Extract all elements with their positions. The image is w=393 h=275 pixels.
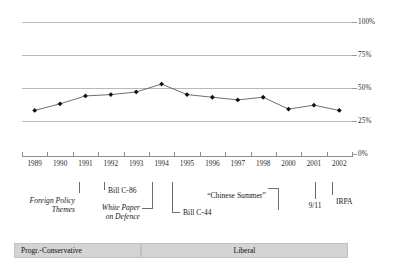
ytick-label-0: 0% xyxy=(358,150,368,158)
x-axis xyxy=(22,156,352,157)
data-point-marker xyxy=(32,108,37,113)
connector-bill-c44-vert xyxy=(172,182,173,212)
party-band-liberal-label: Liberal xyxy=(234,246,256,255)
annotation-bill-c44: Bill C-44 xyxy=(183,208,211,217)
series-polyline xyxy=(35,84,340,110)
connector-irpa xyxy=(332,182,333,195)
x-tick-mark xyxy=(98,152,99,157)
x-tick-label-1995: 1995 xyxy=(180,160,194,168)
data-point-marker xyxy=(159,82,164,87)
data-point-marker xyxy=(58,101,63,106)
data-point-marker xyxy=(134,90,139,95)
annotation-foreign-policy-themes-line1: Foreign Policy xyxy=(30,196,75,205)
party-band-progressive-conservative: Progr.-Conservative xyxy=(14,243,141,258)
x-tick-label-1990: 1990 xyxy=(53,160,67,168)
annotation-bill-c86: Bill C-86 xyxy=(108,186,136,195)
data-point-marker xyxy=(312,103,317,108)
data-point-marker xyxy=(286,107,291,112)
x-tick-mark xyxy=(124,152,125,157)
ytick-label-25: 25% xyxy=(358,117,371,125)
data-point-marker xyxy=(185,92,190,97)
x-tick-mark xyxy=(225,152,226,157)
data-point-marker xyxy=(210,95,215,100)
x-tick-mark xyxy=(251,152,252,157)
data-point-marker xyxy=(337,108,342,113)
ytick-dash-75 xyxy=(352,55,357,56)
connector-white-paper-horiz xyxy=(142,208,153,209)
ytick-label-75: 75% xyxy=(358,51,371,59)
x-tick-label-1998: 1998 xyxy=(256,160,270,168)
x-tick-label-1996: 1996 xyxy=(205,160,219,168)
x-tick-label-1997: 1997 xyxy=(231,160,245,168)
annotation-foreign-policy-themes-line2: Themes xyxy=(30,205,75,214)
x-tick-label-1991: 1991 xyxy=(78,160,92,168)
x-tick-label-2002: 2002 xyxy=(332,160,346,168)
data-point-marker xyxy=(108,92,113,97)
connector-white-paper-vert xyxy=(152,182,153,208)
ytick-dash-100 xyxy=(352,22,357,23)
data-point-marker xyxy=(261,95,266,100)
connector-chinese-summer-vert xyxy=(278,188,279,210)
x-tick-label-1989: 1989 xyxy=(28,160,42,168)
connector-911 xyxy=(315,182,316,199)
connector-foreign-policy xyxy=(79,182,80,193)
ytick-label-50: 50% xyxy=(358,84,371,92)
x-tick-mark xyxy=(327,152,328,157)
ytick-dash-50 xyxy=(352,88,357,89)
x-tick-mark xyxy=(47,152,48,157)
connector-bill-c44-horiz xyxy=(172,212,180,213)
ytick-dash-25 xyxy=(352,121,357,122)
annotation-irpa: IRPA xyxy=(336,197,353,206)
party-band-progressive-conservative-label: Progr.-Conservative xyxy=(21,246,82,255)
chart-container: 100% 75% 50% 25% 0% 19891990199119921993… xyxy=(0,0,393,275)
connector-chinese-summer-horiz xyxy=(268,188,279,189)
x-tick-mark xyxy=(276,152,277,157)
annotation-white-paper-line1: White Paper xyxy=(102,203,140,212)
party-band-liberal: Liberal xyxy=(141,243,348,258)
x-tick-mark xyxy=(174,152,175,157)
data-series-line xyxy=(22,14,352,160)
x-tick-mark xyxy=(22,152,23,157)
annotation-foreign-policy-themes: Foreign Policy Themes xyxy=(30,196,75,214)
x-tick-mark xyxy=(73,152,74,157)
ytick-label-100: 100% xyxy=(358,18,375,26)
annotation-white-paper-on-defence: White Paper on Defence xyxy=(102,203,140,221)
x-tick-label-1994: 1994 xyxy=(154,160,168,168)
annotation-chinese-summer: “Chinese Summer” xyxy=(207,191,266,200)
x-tick-mark xyxy=(149,152,150,157)
annotation-9-11: 9/11 xyxy=(308,201,321,210)
data-point-marker xyxy=(235,97,240,102)
x-tick-mark xyxy=(352,152,353,157)
x-tick-mark xyxy=(301,152,302,157)
connector-bill-c86 xyxy=(104,182,105,190)
x-tick-label-1993: 1993 xyxy=(129,160,143,168)
x-tick-mark xyxy=(200,152,201,157)
x-tick-label-2000: 2000 xyxy=(281,160,295,168)
annotation-white-paper-line2: on Defence xyxy=(102,212,140,221)
x-tick-label-1992: 1992 xyxy=(104,160,118,168)
data-point-marker xyxy=(83,94,88,99)
x-tick-label-2001: 2001 xyxy=(307,160,321,168)
